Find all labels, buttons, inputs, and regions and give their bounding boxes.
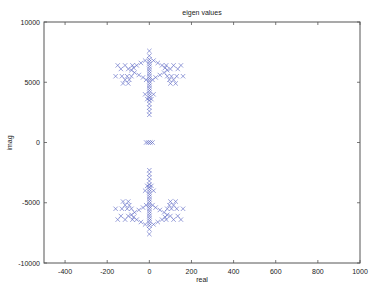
x-marker: [156, 220, 160, 224]
plot-frame: [44, 22, 360, 263]
x-marker: [134, 217, 138, 221]
x-marker: [147, 113, 151, 117]
x-marker: [137, 73, 141, 77]
x-marker: [147, 197, 151, 201]
x-marker: [126, 81, 130, 85]
y-tick-label: 10000: [21, 19, 41, 26]
x-marker: [153, 205, 157, 209]
x-marker: [147, 84, 151, 88]
x-marker: [147, 62, 151, 66]
x-marker: [147, 227, 151, 231]
x-marker: [143, 189, 147, 193]
x-marker: [147, 91, 151, 95]
x-marker: [147, 232, 151, 236]
x-tick-label: -400: [58, 268, 72, 275]
x-marker: [147, 54, 151, 58]
x-marker: [153, 75, 157, 79]
chart-title: eigen values: [182, 9, 222, 17]
x-marker: [147, 179, 151, 183]
x-marker: [147, 49, 151, 53]
x-marker: [139, 220, 143, 224]
x-marker: [147, 69, 151, 73]
x-marker: [126, 199, 130, 203]
x-marker: [143, 92, 147, 96]
x-tick-label: 600: [270, 268, 282, 275]
x-marker: [147, 219, 151, 223]
x-marker: [160, 63, 164, 67]
x-marker: [147, 221, 151, 225]
x-tick-label: 200: [186, 268, 198, 275]
x-marker: [147, 64, 151, 68]
x-tick-label: -200: [100, 268, 114, 275]
x-marker: [139, 61, 143, 65]
x-marker: [151, 58, 155, 62]
data-points: [113, 49, 185, 237]
y-tick-label: -5000: [22, 199, 40, 206]
x-marker: [151, 92, 155, 96]
y-tick-label: 5000: [24, 79, 40, 86]
x-tick-label: 800: [312, 268, 324, 275]
x-marker: [168, 81, 172, 85]
x-marker: [143, 58, 147, 62]
x-marker: [147, 216, 151, 220]
x-marker: [147, 60, 151, 64]
x-marker: [147, 175, 151, 179]
eigenvalue-scatter-chart: eigen values -400-20002004006008001000 -…: [0, 0, 375, 289]
x-marker: [113, 207, 117, 211]
x-tick-label: 400: [228, 268, 240, 275]
y-axis-ticks: -10000-50000500010000: [18, 19, 360, 267]
x-marker: [144, 140, 148, 144]
x-axis-label: real: [196, 276, 208, 283]
x-marker: [119, 67, 123, 71]
x-marker: [147, 88, 151, 92]
x-tick-label: 0: [147, 268, 151, 275]
x-marker: [148, 140, 152, 144]
x-marker: [137, 208, 141, 212]
x-marker: [147, 102, 151, 106]
y-tick-label: -10000: [18, 260, 40, 267]
x-marker: [147, 209, 151, 213]
x-marker: [151, 222, 155, 226]
x-marker: [147, 214, 151, 218]
y-tick-label: 0: [36, 139, 40, 146]
x-marker: [147, 172, 151, 176]
x-marker: [147, 86, 151, 90]
x-marker: [147, 190, 151, 194]
x-marker: [176, 214, 180, 218]
x-marker: [134, 63, 138, 67]
x-marker: [181, 74, 185, 78]
x-marker: [151, 189, 155, 193]
x-axis-ticks: -400-20002004006008001000: [58, 22, 368, 275]
x-marker: [143, 222, 147, 226]
x-marker: [160, 217, 164, 221]
x-marker: [147, 57, 151, 61]
x-marker: [147, 105, 151, 109]
x-marker: [168, 199, 172, 203]
x-marker: [119, 214, 123, 218]
x-marker: [141, 205, 145, 209]
x-marker: [147, 192, 151, 196]
x-marker: [147, 67, 151, 71]
x-marker: [176, 67, 180, 71]
y-axis-label: imag: [6, 135, 14, 150]
x-tick-label: 1000: [352, 268, 368, 275]
x-marker: [147, 72, 151, 76]
x-marker: [150, 140, 154, 144]
x-marker: [146, 140, 150, 144]
x-marker: [156, 61, 160, 65]
x-marker: [158, 208, 162, 212]
x-marker: [147, 109, 151, 113]
x-marker: [141, 75, 145, 79]
x-marker: [147, 168, 151, 172]
x-marker: [113, 74, 117, 78]
x-marker: [181, 207, 185, 211]
x-marker: [147, 195, 151, 199]
x-marker: [158, 73, 162, 77]
x-marker: [147, 211, 151, 215]
x-marker: [147, 223, 151, 227]
